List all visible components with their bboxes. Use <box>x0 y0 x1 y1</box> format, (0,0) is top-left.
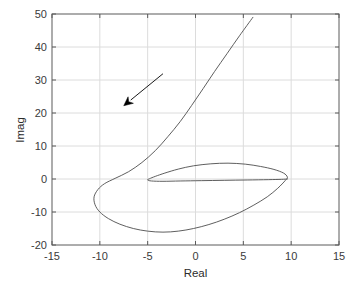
x-tick-label: -15 <box>44 251 60 262</box>
x-tick-label: 10 <box>285 251 297 262</box>
y-tick-label: 50 <box>35 9 47 20</box>
y-tick-label: 30 <box>35 75 47 86</box>
x-tick-label: 15 <box>333 251 345 262</box>
x-tick-label: -5 <box>143 251 153 262</box>
x-tick-label: -10 <box>92 251 108 262</box>
y-axis-title: Imag <box>14 117 26 143</box>
arrow-head <box>124 97 134 106</box>
data-curve <box>94 17 288 232</box>
y-tick-label: 10 <box>35 141 47 152</box>
y-tick-label: 20 <box>35 108 47 119</box>
data-curve-group <box>94 17 288 232</box>
x-tick-label: 0 <box>192 251 198 262</box>
y-tick-label: -10 <box>31 207 47 218</box>
grid-lines <box>52 14 339 245</box>
y-tick-label: 0 <box>41 174 47 185</box>
arrow-shaft <box>131 74 163 100</box>
annotation-group <box>124 74 163 106</box>
x-axis-title: Real <box>184 267 208 279</box>
y-tick-label: -20 <box>31 240 47 251</box>
x-tick-label: 5 <box>240 251 246 262</box>
nyquist-plot-figure: -15-10-5051015 -20-1001020304050 Real Im… <box>0 0 360 294</box>
y-tick-label: 40 <box>35 42 47 53</box>
